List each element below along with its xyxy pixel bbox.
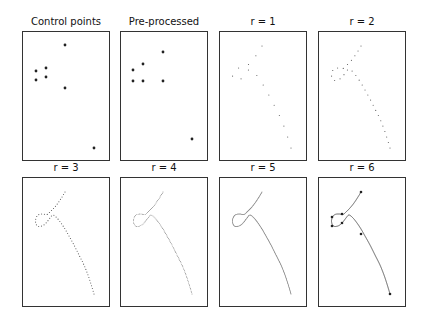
point-marker bbox=[75, 248, 76, 249]
point-marker bbox=[173, 247, 174, 248]
point-marker bbox=[38, 214, 39, 215]
point-marker bbox=[162, 193, 163, 194]
point-marker bbox=[190, 287, 191, 288]
point-marker bbox=[347, 64, 348, 65]
panel-pre: Pre-processed bbox=[120, 31, 208, 161]
point-marker bbox=[175, 251, 176, 252]
point-marker bbox=[36, 216, 37, 217]
plot-area bbox=[318, 31, 406, 161]
plot-area bbox=[120, 31, 208, 161]
point-marker bbox=[184, 270, 185, 271]
point-marker bbox=[35, 70, 38, 73]
point-marker bbox=[161, 226, 162, 227]
point-marker bbox=[332, 70, 333, 71]
point-marker bbox=[148, 211, 149, 212]
point-marker bbox=[351, 60, 352, 61]
point-marker bbox=[339, 78, 340, 79]
point-marker bbox=[157, 220, 158, 221]
point-marker bbox=[45, 76, 48, 79]
point-marker bbox=[142, 224, 143, 225]
point-marker bbox=[85, 269, 86, 270]
point-marker bbox=[179, 259, 180, 260]
point-marker bbox=[343, 74, 344, 75]
plot-area bbox=[22, 177, 110, 307]
point-marker bbox=[60, 199, 61, 200]
point-marker bbox=[80, 258, 81, 259]
point-marker bbox=[133, 223, 134, 224]
point-marker bbox=[149, 210, 150, 211]
point-marker bbox=[145, 214, 146, 215]
point-marker bbox=[331, 216, 334, 219]
point-marker bbox=[132, 80, 135, 83]
point-marker bbox=[185, 274, 186, 275]
point-marker bbox=[162, 80, 165, 83]
point-marker bbox=[77, 251, 78, 252]
point-marker bbox=[186, 277, 187, 278]
point-marker bbox=[147, 212, 148, 213]
point-marker bbox=[41, 213, 42, 214]
point-marker bbox=[389, 147, 390, 148]
point-marker bbox=[150, 209, 151, 210]
point-marker bbox=[188, 281, 189, 282]
point-marker bbox=[46, 222, 47, 223]
point-marker bbox=[173, 248, 174, 249]
point-marker bbox=[142, 63, 145, 66]
point-marker bbox=[180, 261, 181, 262]
point-marker bbox=[255, 55, 256, 56]
point-marker bbox=[175, 252, 176, 253]
point-marker bbox=[183, 268, 184, 269]
point-marker bbox=[63, 194, 64, 195]
point-marker bbox=[151, 215, 152, 216]
point-marker bbox=[68, 235, 69, 236]
point-marker bbox=[248, 64, 249, 65]
point-marker bbox=[53, 208, 54, 209]
point-marker bbox=[171, 244, 172, 245]
point-marker bbox=[360, 45, 361, 46]
point-marker bbox=[93, 293, 94, 294]
point-marker bbox=[168, 238, 169, 239]
point-marker bbox=[67, 233, 68, 234]
point-marker bbox=[56, 217, 57, 218]
panel-title: r = 6 bbox=[298, 162, 426, 173]
point-marker bbox=[189, 284, 190, 285]
point-marker bbox=[359, 80, 360, 81]
point-marker bbox=[135, 215, 136, 216]
point-marker bbox=[64, 228, 65, 229]
point-marker bbox=[181, 264, 182, 265]
point-marker bbox=[375, 110, 376, 111]
point-marker bbox=[149, 216, 150, 217]
point-marker bbox=[58, 219, 59, 220]
point-marker bbox=[138, 226, 139, 227]
point-marker bbox=[146, 220, 147, 221]
point-marker bbox=[134, 224, 135, 225]
point-marker bbox=[166, 234, 167, 235]
point-marker bbox=[256, 75, 257, 76]
point-marker bbox=[181, 262, 182, 263]
point-marker bbox=[192, 294, 193, 295]
point-marker bbox=[35, 79, 38, 82]
point-marker bbox=[71, 241, 72, 242]
point-marker bbox=[143, 214, 144, 215]
point-marker bbox=[370, 100, 371, 101]
point-marker bbox=[171, 243, 172, 244]
point-marker bbox=[47, 214, 48, 215]
point-marker bbox=[240, 78, 241, 79]
panel-r4: r = 4 bbox=[120, 177, 208, 307]
point-marker bbox=[70, 238, 71, 239]
point-marker bbox=[156, 219, 157, 220]
point-marker bbox=[142, 80, 145, 83]
point-marker bbox=[185, 273, 186, 274]
panel-r3: r = 3 bbox=[22, 177, 110, 307]
point-marker bbox=[159, 223, 160, 224]
panel-r2: r = 2 bbox=[318, 31, 406, 161]
point-marker bbox=[155, 204, 156, 205]
point-marker bbox=[49, 212, 50, 213]
point-marker bbox=[64, 87, 67, 90]
point-marker bbox=[184, 272, 185, 273]
plot-area bbox=[219, 177, 307, 307]
point-marker bbox=[362, 84, 363, 85]
point-marker bbox=[187, 278, 188, 279]
point-marker bbox=[41, 226, 42, 227]
point-marker bbox=[291, 294, 292, 295]
point-marker bbox=[162, 227, 163, 228]
